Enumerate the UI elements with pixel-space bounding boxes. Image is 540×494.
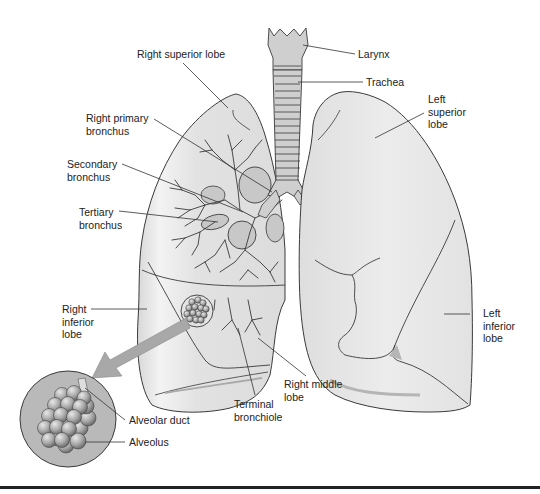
label-alveolar-duct: Alveolar duct bbox=[129, 414, 190, 427]
label-left-inferior-lobe: Left inferior lobe bbox=[483, 307, 515, 345]
label-right-primary-bronchus: Right primary bronchus bbox=[86, 112, 148, 137]
label-right-superior-lobe: Right superior lobe bbox=[137, 48, 225, 61]
label-terminal-bronchiole: Terminal bronchiole bbox=[234, 398, 282, 423]
label-left-superior-lobe: Left superior lobe bbox=[428, 93, 466, 131]
lung-anatomy-diagram: Larynx Trachea Right superior lobe Right… bbox=[0, 0, 540, 494]
label-right-middle-lobe: Right middle lobe bbox=[284, 378, 342, 403]
label-tertiary-bronchus: Tertiary bronchus bbox=[79, 206, 122, 231]
right-lung bbox=[138, 94, 285, 412]
bottom-rule bbox=[0, 486, 540, 489]
label-trachea: Trachea bbox=[366, 76, 404, 89]
label-larynx: Larynx bbox=[358, 48, 390, 61]
magnified-alveoli bbox=[20, 371, 116, 467]
left-lung-outline bbox=[299, 92, 472, 412]
right-primary-bronchus-shape bbox=[239, 167, 271, 203]
label-right-inferior-lobe: Right inferior lobe bbox=[62, 303, 94, 341]
label-alveolus: Alveolus bbox=[129, 436, 169, 449]
left-lung bbox=[299, 92, 472, 412]
right-lung-outline bbox=[138, 94, 285, 412]
label-secondary-bronchus: Secondary bronchus bbox=[67, 158, 117, 183]
larynx-shape bbox=[268, 28, 308, 70]
